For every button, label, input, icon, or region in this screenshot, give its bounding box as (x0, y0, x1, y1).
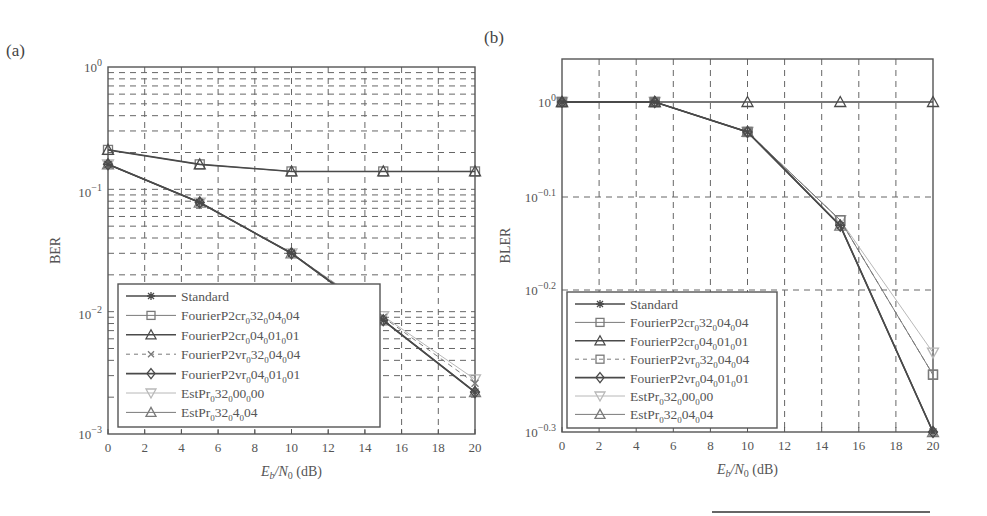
x-tick-label: 16 (395, 440, 409, 455)
x-tick-label: 18 (889, 438, 902, 453)
x-tick-label: 4 (178, 440, 185, 455)
x-tick-label: 16 (852, 438, 866, 453)
x-tick-label: 12 (322, 440, 335, 455)
y-tick-label: 10−3 (78, 424, 102, 442)
x-tick-label: 10 (285, 440, 298, 455)
x-axis-label: Eb/N0 (dB) (260, 464, 322, 481)
x-tick-label: 6 (215, 440, 222, 455)
x-tick-label: 2 (141, 440, 148, 455)
panel-label-a: (a) (6, 41, 25, 60)
x-tick-label: 2 (596, 438, 603, 453)
figure: (a) (b) 0246810121416182010010−110−210−3… (0, 0, 987, 516)
star-marker-icon (596, 300, 604, 308)
x-tick-label: 0 (105, 440, 112, 455)
x-tick-label: 8 (252, 440, 259, 455)
legend: StandardFourierP2cr032004004FourierP2cr0… (118, 284, 380, 427)
panel-label-b: (b) (484, 28, 504, 47)
x-tick-label: 20 (469, 440, 482, 455)
y-tick-label: 10−0.2 (525, 280, 556, 298)
legend-entry: Standard (630, 297, 678, 312)
star-marker-icon (147, 292, 155, 300)
x-tick-label: 14 (815, 438, 829, 453)
x-tick-label: 4 (633, 438, 640, 453)
bler-chart-panel: 0246810121416182010010−0.110−0.210−0.3Eb… (498, 59, 940, 479)
y-tick-label: 100 (538, 92, 556, 110)
y-axis-label: BLER (498, 227, 513, 263)
ber-chart-panel: 0246810121416182010010−110−210−3Eb/N0 (d… (48, 57, 482, 481)
y-tick-label: 10−2 (78, 304, 102, 322)
y-tick-label: 10−0.1 (525, 187, 556, 205)
y-tick-label: 100 (84, 57, 102, 75)
x-tick-label: 14 (358, 440, 372, 455)
x-tick-label: 8 (707, 438, 714, 453)
y-tick-label: 10−1 (78, 182, 102, 200)
x-tick-label: 0 (559, 438, 566, 453)
legend-entry: Standard (181, 289, 229, 304)
x-tick-label: 18 (432, 440, 445, 455)
legend: StandardFourierP2cr032004004FourierP2cr0… (567, 292, 777, 428)
x-tick-label: 10 (741, 438, 754, 453)
x-tick-label: 20 (927, 438, 940, 453)
y-axis-label: BER (48, 236, 63, 264)
x-axis-label: Eb/N0 (dB) (716, 462, 778, 479)
x-tick-label: 12 (778, 438, 791, 453)
y-tick-label: 10−0.3 (525, 422, 556, 440)
x-tick-label: 6 (670, 438, 677, 453)
